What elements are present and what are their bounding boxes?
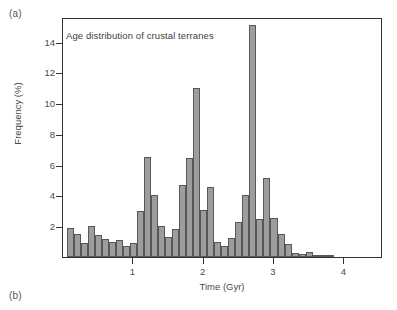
histogram-bar	[214, 242, 221, 257]
histogram-bar	[193, 88, 200, 257]
x-axis-tick	[132, 258, 133, 264]
panel-label-a: (a)	[9, 8, 22, 19]
x-axis-tick	[273, 258, 274, 264]
histogram-bar	[285, 244, 292, 257]
histogram-bar	[165, 237, 172, 257]
histogram-bar	[207, 187, 214, 257]
chart-title: Age distribution of crustal terranes	[66, 30, 214, 41]
histogram-bar	[327, 255, 334, 257]
histogram-bar	[313, 255, 320, 257]
histogram-bar	[88, 226, 95, 257]
y-axis-tick	[56, 104, 62, 105]
histogram-bar	[270, 218, 277, 257]
y-axis-title: Frequency (%)	[12, 59, 23, 169]
x-axis-tick-label: 4	[331, 266, 355, 277]
histogram-bar	[235, 222, 242, 257]
histogram-bar	[249, 25, 256, 257]
panel-label-b: (b)	[9, 290, 22, 301]
y-axis-tick-label: 10	[44, 99, 55, 109]
x-axis-tick	[343, 258, 344, 264]
histogram-bar	[299, 254, 306, 257]
y-axis-tick-label: 12	[44, 68, 55, 78]
histogram-bar	[179, 185, 186, 257]
histogram-bar	[109, 242, 116, 257]
y-axis-tick-label: 8	[50, 130, 55, 140]
histogram-bar	[200, 210, 207, 257]
figure-container: (a) Age distribution of crustal terranes…	[0, 0, 397, 310]
y-axis-tick	[56, 73, 62, 74]
x-axis-tick-label: 1	[120, 266, 144, 277]
y-axis-tick-label: 14	[44, 38, 55, 48]
histogram-bar	[292, 253, 299, 257]
histogram-bar	[172, 229, 179, 257]
histogram-bar	[256, 219, 263, 257]
histogram-bar	[130, 243, 137, 257]
histogram-bar	[320, 255, 327, 257]
histogram-bar	[74, 234, 81, 257]
histogram-bar	[137, 211, 144, 257]
histogram-plot-area	[62, 18, 382, 258]
x-axis-tick	[203, 258, 204, 264]
histogram-bar	[242, 195, 249, 257]
histogram-bar	[306, 252, 313, 257]
y-axis-tick	[56, 196, 62, 197]
histogram-bar	[95, 235, 102, 257]
histogram-bar	[221, 246, 228, 257]
histogram-bar	[186, 158, 193, 257]
histogram-bar	[144, 157, 151, 257]
histogram-bars-layer	[63, 19, 381, 257]
y-axis-tick	[56, 166, 62, 167]
histogram-bar	[81, 243, 88, 257]
histogram-bar	[228, 238, 235, 257]
histogram-bar	[278, 234, 285, 257]
y-axis-tick	[56, 135, 62, 136]
histogram-bar	[116, 240, 123, 257]
histogram-bar	[102, 239, 109, 257]
y-axis-tick-label: 6	[50, 161, 55, 171]
x-axis-tick-label: 3	[261, 266, 285, 277]
x-axis-tick-label: 2	[191, 266, 215, 277]
histogram-bar	[263, 178, 270, 257]
y-axis-tick	[56, 43, 62, 44]
histogram-bar	[67, 228, 74, 257]
histogram-bar	[158, 226, 165, 257]
histogram-bar	[123, 246, 130, 257]
y-axis-tick	[56, 227, 62, 228]
x-axis-title: Time (Gyr)	[62, 281, 382, 292]
histogram-bar	[151, 195, 158, 257]
y-axis-tick-label: 4	[50, 191, 55, 201]
y-axis-tick-label: 2	[50, 222, 55, 232]
